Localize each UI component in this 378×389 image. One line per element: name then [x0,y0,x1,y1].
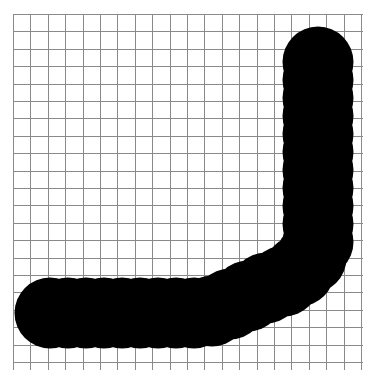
sketch-canvas [0,0,378,389]
drawing-surface[interactable] [0,0,378,389]
brush-dot [15,278,86,349]
